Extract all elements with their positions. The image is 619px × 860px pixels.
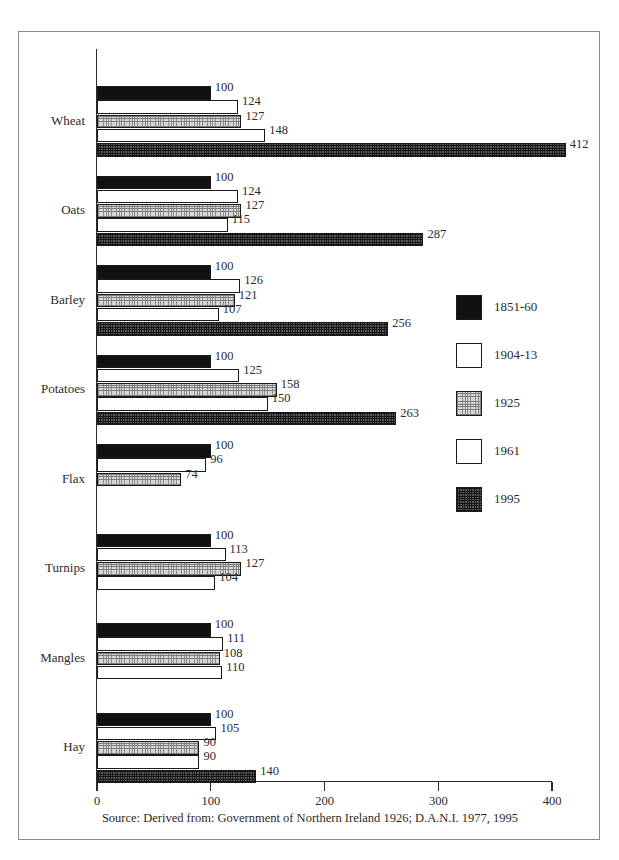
category-label-hay: Hay xyxy=(63,739,85,755)
bar-value-barley-1851-60: 100 xyxy=(215,259,234,274)
bar-barley-1925 xyxy=(97,294,235,308)
x-tick-100 xyxy=(210,782,211,791)
bar-oats-1925 xyxy=(97,204,241,218)
bar-wheat-1851-60 xyxy=(97,86,211,100)
bar-value-hay-1961: 90 xyxy=(203,749,216,764)
bar-wheat-1904-13 xyxy=(97,100,238,114)
bar-value-potatoes-1995: 263 xyxy=(400,405,419,420)
bar-hay-1851-60 xyxy=(97,713,211,727)
x-tick-label-0: 0 xyxy=(94,794,100,809)
bar-value-oats-1851-60: 100 xyxy=(215,169,234,184)
bar-hay-1961 xyxy=(97,755,199,769)
bar-value-potatoes-1904-13: 125 xyxy=(243,362,262,377)
category-label-flax: Flax xyxy=(62,471,85,487)
legend-label-1925: 1925 xyxy=(494,395,520,411)
bar-oats-1904-13 xyxy=(97,190,238,204)
legend-swatch-icon-1925 xyxy=(456,391,482,416)
bar-value-flax-1904-13: 96 xyxy=(210,452,223,467)
bar-value-mangles-1925: 108 xyxy=(224,645,243,660)
legend-swatch-icon-1851-60 xyxy=(456,295,482,320)
bar-value-mangles-1961: 110 xyxy=(226,659,244,674)
bar-turnips-1904-13 xyxy=(97,548,226,562)
bar-value-turnips-1961: 104 xyxy=(219,570,238,585)
bar-value-flax-1851-60: 100 xyxy=(215,438,234,453)
source-note: Source: Derived from: Government of Nort… xyxy=(19,811,601,826)
bar-value-oats-1995: 287 xyxy=(427,226,446,241)
bar-hay-1925 xyxy=(97,741,199,755)
category-label-wheat: Wheat xyxy=(51,113,85,129)
bar-value-barley-1925: 121 xyxy=(239,287,258,302)
bar-value-wheat-1851-60: 100 xyxy=(215,80,234,95)
bar-value-wheat-1925: 127 xyxy=(245,108,264,123)
x-tick-label-100: 100 xyxy=(201,794,220,809)
bar-potatoes-1904-13 xyxy=(97,369,239,383)
bar-value-hay-1995: 140 xyxy=(260,763,279,778)
category-label-potatoes: Potatoes xyxy=(41,381,85,397)
bar-value-barley-1961: 107 xyxy=(223,301,242,316)
bar-value-oats-1904-13: 124 xyxy=(242,183,261,198)
legend-swatch-icon-1961 xyxy=(456,439,482,464)
category-label-mangles: Mangles xyxy=(40,650,85,666)
bar-barley-1904-13 xyxy=(97,279,240,293)
bar-barley-1851-60 xyxy=(97,265,211,279)
bar-mangles-1904-13 xyxy=(97,637,223,651)
bar-value-hay-1851-60: 100 xyxy=(215,706,234,721)
legend-label-1995: 1995 xyxy=(494,491,520,507)
bar-value-turnips-1904-13: 113 xyxy=(230,541,248,556)
legend-swatch-icon-1904-13 xyxy=(456,343,482,368)
bar-value-oats-1925: 127 xyxy=(245,198,264,213)
figure-frame: 0100200300400 WheatOatsBarleyPotatoesFla… xyxy=(18,31,600,840)
bar-value-potatoes-1961: 150 xyxy=(272,391,291,406)
bar-value-wheat-1995: 412 xyxy=(570,137,589,152)
bar-oats-1961 xyxy=(97,218,228,232)
bar-value-flax-1925: 74 xyxy=(185,466,198,481)
bar-wheat-1925 xyxy=(97,115,241,129)
bar-value-hay-1904-13: 105 xyxy=(220,720,239,735)
bar-mangles-1961 xyxy=(97,666,222,680)
bar-value-turnips-1851-60: 100 xyxy=(215,527,234,542)
plot-area: 0100200300400 WheatOatsBarleyPotatoesFla… xyxy=(19,32,601,841)
bar-hay-1995 xyxy=(97,770,256,784)
bar-potatoes-1925 xyxy=(97,383,277,397)
bar-turnips-1961 xyxy=(97,576,215,590)
bar-hay-1904-13 xyxy=(97,727,216,741)
x-tick-0 xyxy=(96,782,97,791)
legend-label-1961: 1961 xyxy=(494,443,520,459)
bar-mangles-1851-60 xyxy=(97,623,211,637)
bar-value-barley-1904-13: 126 xyxy=(244,273,263,288)
bar-value-mangles-1904-13: 111 xyxy=(227,631,245,646)
bar-value-potatoes-1851-60: 100 xyxy=(215,348,234,363)
legend-label-1851-60: 1851-60 xyxy=(494,299,537,315)
bar-value-turnips-1925: 127 xyxy=(245,556,264,571)
x-tick-300 xyxy=(438,782,439,791)
x-tick-label-200: 200 xyxy=(315,794,334,809)
bar-mangles-1925 xyxy=(97,652,220,666)
bar-turnips-1851-60 xyxy=(97,534,211,548)
bar-potatoes-1851-60 xyxy=(97,355,211,369)
category-label-oats: Oats xyxy=(61,202,85,218)
bar-value-mangles-1851-60: 100 xyxy=(215,617,234,632)
bar-value-wheat-1961: 148 xyxy=(269,122,288,137)
legend-swatch-icon-1995 xyxy=(456,487,482,512)
x-tick-label-400: 400 xyxy=(543,794,562,809)
bar-barley-1961 xyxy=(97,308,219,322)
bar-barley-1995 xyxy=(97,322,388,336)
bar-flax-1851-60 xyxy=(97,444,211,458)
x-tick-400 xyxy=(551,782,552,791)
bar-flax-1925 xyxy=(97,473,181,487)
bar-potatoes-1995 xyxy=(97,412,396,426)
category-label-turnips: Turnips xyxy=(45,560,85,576)
bar-value-potatoes-1925: 158 xyxy=(281,377,300,392)
bar-potatoes-1961 xyxy=(97,397,268,411)
category-label-barley: Barley xyxy=(50,292,85,308)
bar-value-barley-1995: 256 xyxy=(392,316,411,331)
x-tick-label-300: 300 xyxy=(429,794,448,809)
bar-oats-1995 xyxy=(97,233,423,247)
bar-value-hay-1925: 90 xyxy=(203,735,216,750)
bar-wheat-1961 xyxy=(97,129,265,143)
bar-wheat-1995 xyxy=(97,143,566,157)
bar-value-wheat-1904-13: 124 xyxy=(242,94,261,109)
legend-label-1904-13: 1904-13 xyxy=(494,347,537,363)
x-tick-200 xyxy=(324,782,325,791)
bar-value-oats-1961: 115 xyxy=(232,212,250,227)
